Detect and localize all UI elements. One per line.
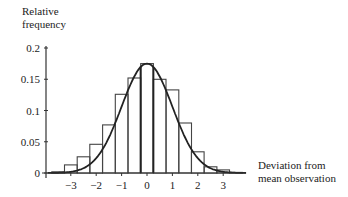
bars-group: [52, 64, 243, 174]
x-tick-label: 3: [220, 179, 226, 191]
y-tick-label: 0.05: [21, 136, 41, 148]
x-ticks: −3−2−10123: [65, 173, 227, 191]
y-tick-label: 0.15: [21, 73, 41, 85]
y-tick-label: 0: [35, 167, 41, 179]
x-axis-label-line2: mean observation: [258, 172, 336, 184]
y-axis-label-line2: frequency: [22, 18, 66, 30]
histogram-chart: 00.050.10.150.2 −3−2−10123 Relative freq…: [0, 0, 348, 197]
y-axis-label-line1: Relative: [22, 5, 59, 17]
histogram-bar: [179, 123, 192, 173]
histogram-bar: [128, 78, 141, 173]
x-tick-label: −1: [116, 179, 128, 191]
y-tick-label: 0.2: [26, 42, 40, 54]
histogram-bar: [103, 125, 116, 173]
x-axis-label-line1: Deviation from: [258, 159, 326, 171]
x-tick-label: 0: [144, 179, 150, 191]
y-tick-label: 0.1: [26, 105, 40, 117]
histogram-bar: [166, 90, 179, 173]
x-tick-label: −2: [90, 179, 102, 191]
x-tick-label: −3: [65, 179, 77, 191]
x-tick-label: 2: [195, 179, 201, 191]
y-ticks: 00.050.10.150.2: [21, 42, 48, 179]
x-tick-label: 1: [170, 179, 176, 191]
histogram-bar: [141, 64, 154, 173]
histogram-bar: [153, 79, 166, 173]
